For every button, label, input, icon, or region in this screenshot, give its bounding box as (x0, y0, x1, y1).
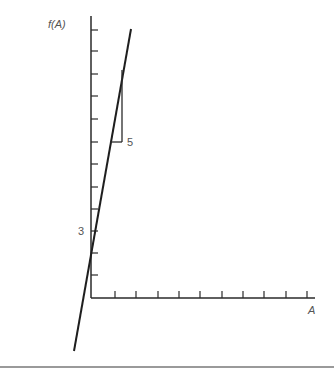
x-axis-ticks (115, 291, 307, 298)
slope-triangle (110, 70, 122, 142)
linear-function-plot (0, 0, 334, 371)
bottom-divider (0, 366, 334, 368)
intercept-label: 3 (78, 225, 84, 237)
x-axis-label: A (308, 304, 315, 316)
y-axis-label: f(A) (48, 18, 66, 30)
slope-rise-label: 5 (127, 136, 133, 148)
